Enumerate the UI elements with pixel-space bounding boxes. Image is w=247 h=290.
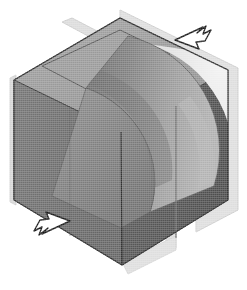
isometric-solid-illustration [0,0,247,290]
figure-root: Isometric solid block with quarter-round… [0,0,247,290]
